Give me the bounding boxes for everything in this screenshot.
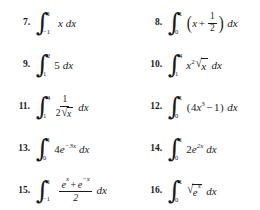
differential: dx [206, 186, 216, 197]
differential: dx [78, 102, 88, 113]
problem-number: 14. [130, 144, 168, 154]
plus-operator: + [199, 18, 205, 29]
problem-9: 9. ∫ 2 1 5 dx [0, 44, 130, 86]
problem-10: 10. ∫ 4 1 x2 √ x dx [130, 44, 260, 86]
integral-operator: ∫ 4 1 [168, 54, 181, 76]
fraction-numerator: ex+e−x [59, 179, 92, 192]
integrand: ex+e−x 2 dx [58, 179, 107, 203]
differential: dx [96, 185, 106, 196]
fraction: 1 2√x [56, 95, 74, 119]
plus-operator: + [71, 179, 77, 190]
lower-limit: 0 [175, 113, 178, 120]
integral-limits: 2 1 [46, 54, 49, 76]
square-root: √ ex [187, 184, 202, 198]
differential: dx [206, 144, 216, 155]
integrand-variable: x [192, 18, 197, 29]
integrand: √ ex dx [186, 184, 216, 198]
problem-number: 10. [130, 60, 168, 70]
integrand: x dx [58, 18, 76, 29]
integral-limits: 1 0 [178, 180, 181, 202]
problem-number: 7. [0, 18, 36, 28]
radical-sign: √ [196, 57, 202, 73]
fraction-denominator: 2 [210, 24, 215, 34]
integral-operator: ∫ 1 −1 [36, 12, 53, 34]
integrand: 4e−3x dx [54, 144, 89, 155]
integrand: ( 4x3 − 1 ) dx [186, 102, 237, 113]
exercise-page: 7. ∫ 1 −1 x dx 8. ∫ [0, 0, 260, 210]
radicand: ex [192, 184, 202, 198]
square-root: √x [62, 107, 73, 119]
lower-limit: 1 [43, 113, 46, 120]
integral-expression: ∫ 1 0 4e−3x dx [36, 138, 89, 160]
integral-operator: ∫ 4 1 [36, 96, 49, 118]
left-paren: ( [187, 16, 192, 31]
integrand: 2e2x dx [186, 144, 216, 155]
integral-expression: ∫ 4 1 x2 √ x dx [168, 54, 222, 76]
upper-limit: 1 [179, 95, 182, 102]
radicand-exponent: x [198, 182, 201, 190]
exercise-grid: 7. ∫ 1 −1 x dx 8. ∫ [0, 0, 260, 210]
exponent: −3x [65, 143, 76, 150]
problem-11: 11. ∫ 4 1 1 2√x dx [0, 86, 130, 128]
lower-limit: −1 [43, 29, 50, 36]
integrand-constant: 5 [54, 60, 60, 71]
fraction-denominator: 2 [73, 192, 78, 203]
problem-number: 11. [0, 102, 36, 112]
integral-operator: ∫ 1 0 [168, 138, 181, 160]
upper-limit: 1 [179, 11, 182, 18]
differential: dx [227, 18, 237, 29]
problem-number: 13. [0, 144, 36, 154]
exponent: 2x [197, 143, 204, 150]
integral-limits: 1 −1 [46, 12, 53, 34]
problem-14: 14. ∫ 1 0 2e2x dx [130, 128, 260, 170]
radicand-base: e [193, 186, 198, 198]
problem-number: 16. [130, 186, 168, 196]
integrand: x2 √ x dx [186, 58, 222, 72]
constant-term: 1 [214, 102, 220, 113]
lower-limit: 0 [175, 29, 178, 36]
upper-limit: 1 [47, 11, 54, 18]
upper-limit: 4 [47, 95, 50, 102]
integral-limits: 1 0 [46, 138, 49, 160]
integral-limits: 1 0 [178, 96, 181, 118]
first-exponent: x [66, 175, 69, 183]
integrand: 1 2√x dx [54, 95, 88, 119]
integral-operator: ∫ 1 −1 [36, 180, 53, 202]
lower-limit: −1 [43, 196, 50, 203]
lower-limit: 0 [175, 155, 178, 162]
integral-operator: ∫ 1 0 [168, 12, 181, 34]
right-paren: ) [219, 16, 224, 31]
integral-expression: ∫ 1 0 2e2x dx [168, 138, 217, 160]
differential: dx [212, 60, 222, 71]
problem-number: 15. [0, 186, 36, 196]
problem-15: 15. ∫ 1 −1 ex+e−x 2 dx [0, 170, 130, 210]
integral-operator: ∫ 1 0 [36, 138, 49, 160]
integrand-variable: x [58, 18, 63, 29]
power-exponent: 3 [201, 101, 205, 108]
integral-expression: ∫ 1 −1 x dx [36, 12, 76, 34]
upper-limit: 2 [47, 53, 50, 60]
problem-12: 12. ∫ 1 0 ( 4x3 − 1 ) dx [130, 86, 260, 128]
left-paren: ( [187, 103, 191, 112]
integral-limits: 4 1 [178, 54, 181, 76]
differential: dx [227, 102, 237, 113]
lower-limit: 1 [175, 71, 178, 78]
power-exponent: 2 [191, 59, 195, 66]
fraction-one-half: 1 2 [208, 12, 217, 34]
right-paren: ) [220, 103, 224, 112]
fraction: ex+e−x 2 [59, 179, 92, 203]
differential: dx [63, 60, 73, 71]
upper-limit: 1 [179, 179, 182, 186]
problem-8: 8. ∫ 1 0 ( x + 1 2 ) [130, 2, 260, 44]
lower-limit: 0 [43, 155, 46, 162]
fraction-numerator: 1 [208, 12, 217, 23]
integral-limits: 1 0 [178, 138, 181, 160]
lower-limit: 1 [43, 71, 46, 78]
upper-limit: 1 [47, 137, 50, 144]
upper-limit: 1 [179, 137, 182, 144]
integral-expression: ∫ 1 0 ( x + 1 2 ) dx [168, 12, 238, 34]
radicand: x [201, 58, 208, 72]
upper-limit: 1 [47, 179, 54, 186]
fraction-denominator: 2√x [56, 107, 74, 119]
integral-expression: ∫ 1 0 √ ex dx [168, 180, 217, 202]
